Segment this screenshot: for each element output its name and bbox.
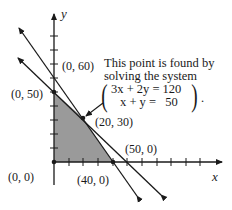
equation-period: . (201, 91, 204, 105)
point-label-0-0: (0, 0) (8, 171, 34, 183)
point-label-50-0: (50, 0) (125, 143, 157, 155)
left-paren: ( (101, 79, 107, 111)
point-label-0-50: (0, 50) (11, 88, 43, 100)
annotation-text: This point is found by solving the syste… (104, 57, 214, 83)
point-label-0-60: (0, 60) (62, 60, 94, 72)
point-label-20-30: (20, 30) (95, 116, 133, 128)
right-paren: ) (191, 79, 197, 111)
y-axis-label: y (61, 7, 67, 20)
line-3x-2y-120 (19, 28, 137, 196)
equation-2: x + y = 50 (120, 95, 178, 109)
equation-1: 3x + 2y = 120 (111, 82, 181, 96)
point-label-40-0: (40, 0) (77, 174, 109, 186)
x-axis-label: x (212, 170, 218, 183)
